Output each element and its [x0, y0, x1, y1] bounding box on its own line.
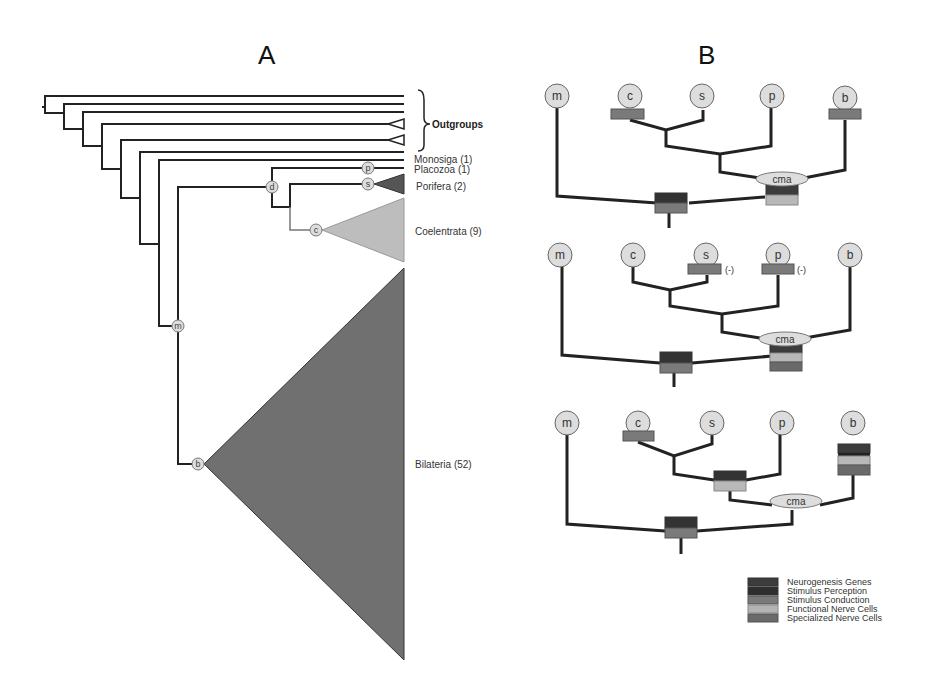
svg-text:cma: cma: [773, 174, 792, 185]
loss-marker: (-): [797, 265, 806, 275]
tip-m: m: [545, 84, 569, 108]
trait-box: [665, 517, 697, 528]
tip-p: p: [760, 84, 784, 108]
trait-box: [611, 109, 644, 119]
trait-box: [766, 195, 798, 205]
cma-node: cma: [770, 494, 822, 508]
trait-box: [655, 193, 687, 203]
svg-text:m: m: [552, 89, 562, 103]
trait-box: [838, 465, 870, 475]
tip-p: p: [766, 243, 790, 267]
trait-box: [838, 444, 870, 453]
svg-text:c: c: [635, 416, 641, 430]
tip-s: s: [694, 243, 718, 267]
tip-b: b: [838, 243, 862, 267]
loss-marker: (-): [725, 265, 734, 275]
tip-c: c: [618, 84, 642, 108]
svg-text:b: b: [842, 91, 849, 105]
tip-m: m: [555, 411, 579, 435]
tip-m: m: [548, 243, 572, 267]
scenario-2: m c s p b (-) (-) cma: [548, 243, 862, 387]
svg-text:b: b: [847, 248, 854, 262]
tip-b: b: [841, 411, 865, 435]
tip-c: c: [621, 243, 645, 267]
svg-text:m: m: [555, 248, 565, 262]
tip-s: s: [690, 84, 714, 108]
trait-box: [623, 431, 654, 441]
trait-box: [829, 109, 861, 119]
scenario-3: m c s p b cma: [555, 411, 870, 554]
trait-box: [665, 528, 697, 538]
trait-box: [655, 203, 687, 213]
cma-node: cma: [759, 332, 811, 346]
trait-box: [660, 363, 692, 373]
cma-node: cma: [756, 172, 808, 186]
svg-text:s: s: [699, 89, 705, 103]
svg-text:cma: cma: [776, 334, 795, 345]
trait-box: [660, 352, 692, 363]
trait-box: [770, 353, 802, 362]
scenarios-b: m c s p b cma m c s p b (-) (-): [0, 0, 930, 685]
svg-text:p: p: [775, 248, 782, 262]
trait-box: [714, 471, 746, 481]
svg-text:s: s: [709, 416, 715, 430]
svg-text:p: p: [779, 416, 786, 430]
scenario-1: m c s p b cma: [545, 84, 861, 228]
svg-text:c: c: [630, 248, 636, 262]
legend-item-label: Specialized Nerve Cells: [787, 613, 883, 623]
svg-text:s: s: [703, 248, 709, 262]
trait-box: [714, 481, 746, 491]
trait-box: [762, 264, 794, 274]
trait-box: [688, 264, 721, 274]
svg-text:c: c: [627, 89, 633, 103]
svg-text:cma: cma: [787, 496, 806, 507]
svg-text:b: b: [850, 416, 857, 430]
svg-text:m: m: [562, 416, 572, 430]
tip-b: b: [833, 86, 857, 110]
tip-p: p: [770, 411, 794, 435]
trait-box: [838, 456, 870, 465]
tip-s: s: [700, 411, 724, 435]
trait-box: [770, 362, 802, 371]
svg-text:p: p: [769, 89, 776, 103]
legend: Neurogenesis Genes Stimulus Perception S…: [748, 577, 883, 623]
